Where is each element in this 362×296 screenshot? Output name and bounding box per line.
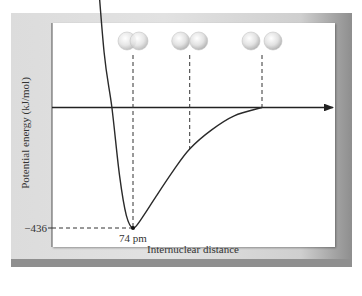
minimum-point — [131, 226, 135, 230]
atom-separated-1 — [242, 32, 260, 50]
x-tick-label: 74 pm — [119, 232, 147, 244]
atom-touching-1 — [172, 32, 190, 50]
y-axis-label: Potential energy (kJ/mol) — [19, 77, 31, 189]
dashed-guides — [48, 55, 262, 228]
y-tick-label: −436 — [24, 222, 47, 234]
atom-touching-2 — [190, 32, 208, 50]
atom-overlapping-2 — [130, 32, 148, 50]
atom-pairs — [118, 32, 282, 50]
atom-separated-2 — [264, 32, 282, 50]
x-axis-label: Internuclear distance — [147, 243, 239, 255]
